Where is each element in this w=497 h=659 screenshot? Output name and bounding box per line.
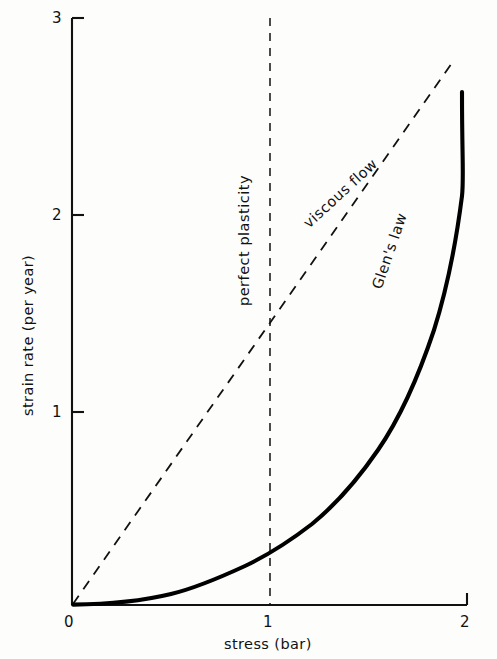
y-tick-label-3: 3 (52, 9, 62, 27)
x-tick-label-2: 2 (460, 613, 470, 631)
annotation-perfect-plasticity: perfect plasticity (236, 175, 252, 306)
chart-figure: 3 2 1 0 1 2 strain rate (per year) stres… (0, 0, 497, 659)
plot-area (0, 0, 497, 659)
y-tick-label-2: 2 (52, 206, 62, 224)
y-axis-title: strain rate (per year) (20, 255, 36, 416)
glens-law-curve (73, 92, 463, 605)
x-axis-title: stress (bar) (224, 636, 312, 652)
x-tick-label-1: 1 (263, 613, 273, 631)
y-tick-label-1: 1 (52, 403, 62, 421)
viscous-flow-line (73, 63, 452, 604)
x-tick-label-0: 0 (64, 613, 74, 631)
